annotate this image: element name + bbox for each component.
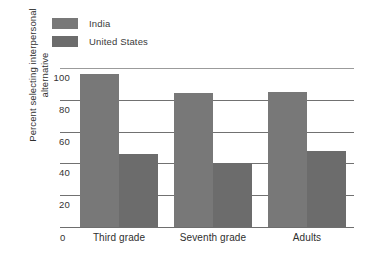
bar-united-states-third-grade (119, 154, 158, 227)
x-axis-line (60, 227, 354, 228)
legend-label-united-states: United States (89, 36, 148, 47)
bar-india-adults (268, 92, 307, 227)
bar-united-states-adults (307, 151, 346, 227)
x-axis-label-adults: Adults (268, 232, 346, 243)
y-axis-tick-100: 100 (54, 72, 70, 83)
y-axis-tick-60: 60 (59, 135, 70, 146)
bar-united-states-seventh-grade (213, 163, 252, 227)
chart-legend: India United States (52, 15, 148, 51)
bar-india-third-grade (80, 74, 119, 227)
y-axis-title-line2: alternative (39, 8, 51, 142)
bar-india-seventh-grade (174, 93, 213, 227)
bar-groups: Third gradeSeventh gradeAdults (76, 68, 352, 227)
legend-swatch-united-states (52, 36, 78, 47)
y-axis-tick-40: 40 (59, 167, 70, 178)
bar-group-third-grade: Third grade (80, 68, 158, 227)
plot-area: 20406080100 Third gradeSeventh gradeAdul… (76, 68, 352, 227)
y-axis-tick-20: 20 (59, 199, 70, 210)
legend-label-india: India (89, 18, 110, 29)
bar-group-adults: Adults (268, 68, 346, 227)
y-axis-title: Percent selecting interpersonal alternat… (26, 0, 52, 160)
legend-item-india: India (52, 15, 148, 31)
y-axis-origin-label: 0 (60, 232, 65, 243)
legend-item-united-states: United States (52, 33, 148, 49)
y-axis-title-line1: Percent selecting interpersonal (27, 8, 38, 142)
legend-swatch-india (52, 18, 78, 29)
x-axis-label-third-grade: Third grade (80, 232, 158, 243)
x-axis-label-seventh-grade: Seventh grade (174, 232, 252, 243)
bar-group-seventh-grade: Seventh grade (174, 68, 252, 227)
y-axis-tick-80: 80 (59, 103, 70, 114)
bar-chart-figure: India United States Percent selecting in… (0, 0, 372, 262)
